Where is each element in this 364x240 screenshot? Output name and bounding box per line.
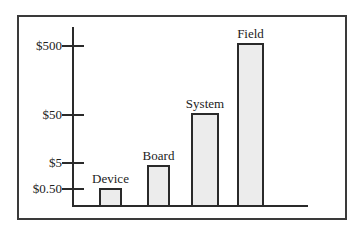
bar-label: System [186, 97, 224, 110]
y-tick-label: $0.50 [33, 182, 62, 195]
y-tick-label: $500 [36, 39, 62, 52]
bar-device [99, 188, 122, 205]
y-tick-label: $50 [43, 108, 63, 121]
y-axis [72, 27, 74, 207]
bar-system [191, 113, 219, 205]
y-tick [62, 162, 84, 164]
bar-board [147, 165, 170, 205]
bar-label: Board [143, 149, 175, 162]
bar-field [237, 43, 264, 205]
bar-label: Field [237, 27, 264, 40]
y-tick [62, 188, 84, 190]
y-tick [62, 114, 84, 116]
y-tick [62, 45, 84, 47]
y-tick-label: $5 [49, 156, 62, 169]
x-axis [72, 205, 308, 207]
bar-label: Device [92, 172, 129, 185]
